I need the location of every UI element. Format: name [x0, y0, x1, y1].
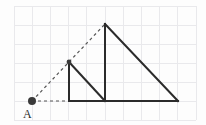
vertex-dot-c: [67, 60, 72, 65]
figure-canvas: A: [0, 0, 206, 125]
point-labels: A: [23, 107, 32, 121]
vertex-dot-a: [28, 97, 36, 105]
geometry-figure: A: [0, 0, 206, 125]
point-label-a: A: [23, 107, 32, 121]
